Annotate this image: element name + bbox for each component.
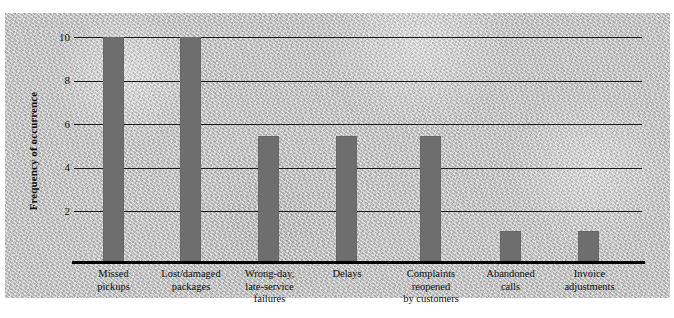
category-label-wrong-day-late-service-failures: Wrong-day,late-servicefailures xyxy=(228,268,311,306)
category-label-lost-damaged-packages: Lost/damagedpackages xyxy=(147,268,235,293)
y-axis-title: Frequency of occurrence xyxy=(27,66,39,236)
y-tick-label-6: 6 xyxy=(44,119,70,130)
gridline-2 xyxy=(74,211,642,212)
category-label-invoice-adjustments: Invoiceadjustments xyxy=(546,268,633,293)
bar-abandoned-calls xyxy=(500,231,521,261)
gridline-6 xyxy=(74,124,642,125)
bar-invoice-adjustments xyxy=(578,231,599,261)
pareto-bar-chart: Frequency of occurrence 10 8 6 4 2 Misse… xyxy=(0,0,674,318)
y-tick-label-10: 10 xyxy=(44,32,70,43)
y-tick-label-2: 2 xyxy=(44,206,70,217)
y-tick-label-8: 8 xyxy=(44,75,70,86)
category-label-delays: Delays xyxy=(309,268,385,281)
category-label-abandoned-calls: Abandonedcalls xyxy=(469,268,552,293)
bar-complaints-reopened-by-customers xyxy=(420,136,441,261)
category-label-missed-pickups: Missedpickups xyxy=(73,268,154,293)
bar-delays xyxy=(336,136,357,261)
category-label-complaints-reopened-by-customers: Complaintsreopenedby customers xyxy=(388,268,474,306)
bar-lost-damaged-packages xyxy=(180,37,201,261)
gridline-8 xyxy=(74,81,642,82)
bar-wrong-day-late-service-failures xyxy=(258,136,279,261)
gridline-10 xyxy=(74,37,642,38)
y-tick-label-4: 4 xyxy=(44,162,70,173)
bar-missed-pickups xyxy=(103,37,124,261)
gridline-4 xyxy=(74,168,642,169)
x-axis-line xyxy=(72,261,645,264)
